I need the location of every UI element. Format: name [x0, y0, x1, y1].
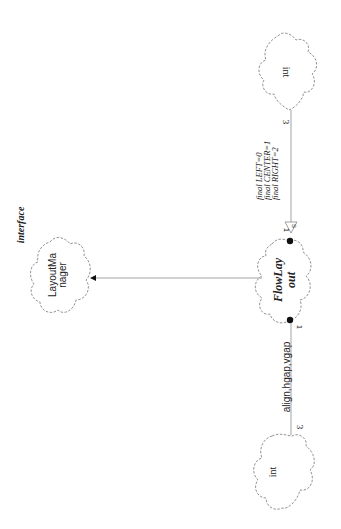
uml-class-diagram: int 3 final LEFT=0 final CENTER=1 final … — [0, 0, 341, 529]
cloud-shape — [254, 434, 315, 509]
constants-near-multiplicity: 1 — [283, 228, 290, 232]
fields-label: align,hgap,vgap — [281, 341, 292, 412]
flowlayout-class[interactable]: FlowLay out — [255, 239, 311, 323]
fields-aggregation-dot — [287, 317, 293, 323]
int-bottom-label: int — [267, 467, 278, 478]
interface-stereotype: interface — [15, 206, 26, 243]
fields-far-multiplicity: 3 — [295, 425, 305, 430]
static-marker-label: S — [291, 224, 297, 228]
constants-aggregation-dot — [287, 238, 293, 244]
int-bottom-class[interactable]: int — [254, 434, 315, 509]
layoutmanager-label-line2: nager — [57, 262, 68, 288]
int-top-class[interactable]: int — [259, 33, 317, 110]
flowlayout-label-line1: FlowLay — [271, 257, 285, 303]
constants-attributes: final LEFT=0 final CENTER=1 final RIGHT=… — [254, 141, 280, 200]
arrowhead-icon — [90, 275, 96, 281]
attr-right: final RIGHT=2 — [270, 147, 280, 200]
flowlayout-label-line2: out — [284, 271, 298, 288]
fields-near-multiplicity: 1 — [296, 325, 303, 329]
int-top-label: int — [281, 67, 292, 78]
constants-far-multiplicity: 3 — [281, 120, 291, 125]
layoutmanager-class[interactable]: LayoutMa nager — [31, 238, 91, 313]
